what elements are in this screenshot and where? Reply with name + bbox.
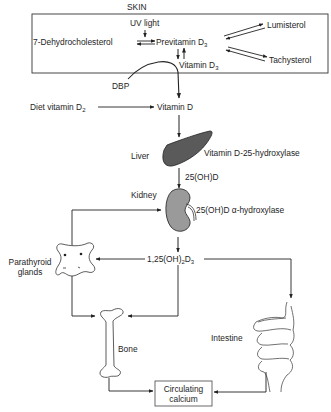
calcium-label: Circulatingcalcium [155,385,212,404]
dehydrocholesterol-label: 7-Dehydrocholesterol [33,38,113,46]
vitamin-d3-label: Vitamin D3 [179,61,219,69]
liver-enzyme-label: Vitamin D-25-hydroxylase [204,149,300,157]
parathyroid-shape [56,243,95,276]
vitamin-d-label: Vitamin D [157,103,193,111]
parathyroid-label: Parathyroidglands [2,258,58,277]
kidney-enzyme-label: 25(OH)D α-hydroxylase [196,206,284,214]
diet-vitamin-d2-label: Diet vitamin D2 [30,103,85,111]
bone-shape [100,309,123,378]
intestine-shape [254,302,294,392]
intestine-label: Intestine [211,334,243,342]
bone-label: Bone [118,345,138,353]
dbp-label: DBP [112,82,129,90]
kidney-shape [166,189,190,231]
metabolite-25-label: 25(OH)D [185,173,219,181]
kidney-label: Kidney [131,191,157,199]
dbp-curve [128,62,179,98]
skin-label: SKIN [127,3,147,11]
previtamin-label: Previtamin D3 [156,38,207,46]
active-vitamin-d-label: 1,25(OH)2D3 [147,255,194,263]
uv-light-label: UV light [130,19,159,27]
lumisterol-label: Lumisterol [267,21,306,29]
liver-label: Liver [131,152,149,160]
tachysterol-label: Tachysterol [269,56,311,64]
